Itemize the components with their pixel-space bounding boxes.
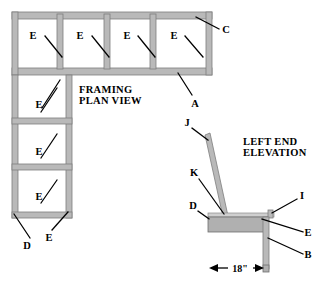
left-end-elevation-group: J K D I E B LEFT END ELEVATION 18": [184, 117, 311, 274]
elevation-width-dimension: 18": [209, 263, 264, 274]
callout-elev-i: I: [300, 190, 304, 201]
callout-elev-k: K: [190, 167, 199, 178]
dim-label-18in: 18": [232, 263, 248, 274]
leader-plan-e-4: [185, 36, 203, 57]
plan-stud-1: [57, 14, 63, 69]
callout-plan-c: C: [222, 24, 230, 35]
plan-view-title-line1: FRAMING: [79, 84, 132, 95]
elevation-post-foot: [263, 265, 269, 272]
plan-stud-2: [104, 14, 110, 69]
callout-elev-j: J: [184, 117, 189, 128]
plan-stud-right-outer: [206, 12, 212, 75]
callout-plan-d: D: [23, 240, 31, 251]
plan-left-col-right-rail: [66, 75, 72, 218]
elevation-beam-top-plate: [208, 213, 274, 217]
framing-drawing-canvas: E E E E C A E E E E D FRAMING PLAN VIEW: [0, 0, 323, 285]
plan-left-col-divider-2: [12, 164, 72, 170]
leader-elev-d: [198, 211, 209, 219]
callout-plan-e-4: E: [170, 30, 177, 41]
elevation-title-line1: LEFT END: [243, 136, 298, 147]
plan-mid-beam: [12, 68, 212, 75]
plan-left-col-divider-1: [12, 118, 72, 124]
callout-elev-e: E: [304, 227, 311, 238]
plan-stud-left-outer: [12, 12, 18, 75]
plan-top-beam: [12, 12, 212, 19]
callout-plan-e-6: E: [35, 146, 42, 157]
elevation-title-line2: ELEVATION: [243, 147, 307, 158]
leader-plan-e-6: [41, 134, 57, 158]
leader-plan-e-7: [41, 180, 57, 203]
technical-drawing-svg: E E E E C A E E E E D FRAMING PLAN VIEW: [0, 0, 323, 285]
leader-plan-e-5: [41, 88, 57, 112]
callout-plan-e-2: E: [76, 30, 83, 41]
callout-plan-e-7: E: [35, 191, 42, 202]
leader-elev-j: [192, 128, 208, 140]
dim-arrowhead-left: [209, 264, 218, 272]
elevation-vertical-post: [263, 217, 269, 269]
leader-elev-b: [268, 238, 303, 254]
callout-plan-e-8: E: [45, 232, 52, 243]
leader-plan-e-corner: [42, 80, 60, 108]
callout-elev-b: B: [304, 249, 311, 260]
elevation-beam-body: [208, 217, 268, 232]
callout-plan-e-3: E: [123, 30, 130, 41]
plan-left-col-left-rail: [12, 75, 18, 218]
callout-plan-e-5: E: [35, 99, 42, 110]
callout-plan-e-1: E: [29, 30, 36, 41]
leader-plan-a: [178, 73, 192, 95]
callout-plan-a: A: [191, 98, 199, 109]
plan-stud-3: [150, 14, 156, 69]
plan-view-title-line2: PLAN VIEW: [79, 95, 142, 106]
leader-elev-i: [272, 199, 297, 213]
callout-elev-d: D: [189, 200, 197, 211]
